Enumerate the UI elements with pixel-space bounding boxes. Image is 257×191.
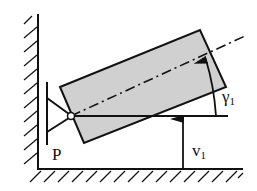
rotation-label: γ1	[221, 87, 235, 107]
wall-hatching	[24, 16, 37, 164]
mechanism-diagram: P γ1 v1	[0, 0, 257, 191]
floor-hatching	[30, 171, 243, 182]
translation-label: v1	[192, 141, 206, 161]
pivot-joint	[68, 113, 75, 120]
translation-subscript: 1	[201, 149, 207, 161]
rigid-body	[60, 30, 226, 143]
rotation-subscript: 1	[230, 95, 236, 107]
pivot-label: P	[52, 145, 61, 164]
